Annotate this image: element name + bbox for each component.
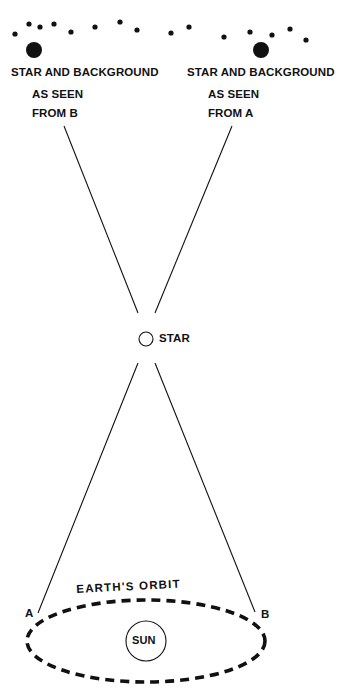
right-caption-line2: AS SEEN: [208, 88, 259, 100]
sun-label: SUN: [132, 634, 156, 646]
point-b-label: B: [261, 608, 269, 620]
background-stars: [12, 19, 308, 42]
star-label: STAR: [159, 332, 190, 344]
point-a-label: A: [25, 607, 33, 619]
star-seen-from-b: [26, 42, 42, 58]
right-caption-line1: STAR AND BACKGROUND: [187, 66, 335, 78]
parallax-diagram: [0, 0, 348, 699]
star-seen-from-a: [253, 42, 269, 58]
left-caption-line2: AS SEEN: [32, 88, 83, 100]
left-caption-line3: FROM B: [32, 107, 78, 119]
sight-lines: [38, 126, 255, 613]
right-caption-line3: FROM A: [208, 107, 254, 119]
star-icon: [139, 332, 153, 346]
left-caption-line1: STAR AND BACKGROUND: [11, 66, 159, 78]
